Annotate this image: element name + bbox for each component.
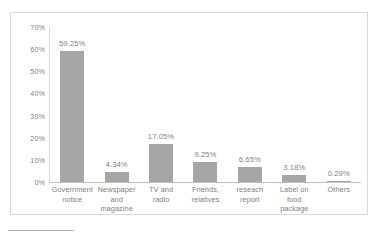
bar-value-label: 0.29%: [328, 169, 350, 178]
bar-slot: 59.25%: [50, 27, 94, 182]
chart-container: 0%10%20%30%40%50%60%70% 59.25%4.34%17.05…: [10, 12, 368, 215]
x-axis-category-label: Label on food package: [272, 185, 316, 214]
bar-value-label: 4.34%: [106, 160, 128, 169]
x-axis-category-label: Newspaper and magazine: [94, 185, 138, 214]
y-axis-tick-label: 20%: [30, 133, 49, 142]
y-axis-tick-label: 60%: [30, 45, 49, 54]
y-axis-tick-label: 40%: [30, 89, 49, 98]
bar-slot: 9.25%: [183, 27, 227, 182]
bar[interactable]: 9.25%: [193, 162, 217, 182]
bar-value-label: 59.25%: [59, 39, 85, 48]
bar[interactable]: 0.29%: [327, 181, 351, 182]
y-axis-tick-label: 70%: [30, 23, 49, 32]
bar-slot: 0.29%: [317, 27, 361, 182]
bar-value-label: 17.05%: [148, 132, 174, 141]
bar-series: 59.25%4.34%17.05%9.25%6.65%3.18%0.29%: [50, 27, 361, 182]
x-axis-line: [49, 182, 361, 183]
y-axis-tick-label: 50%: [30, 67, 49, 76]
bar-slot: 3.18%: [272, 27, 316, 182]
bar-value-label: 3.18%: [283, 163, 305, 172]
plot-area: 0%10%20%30%40%50%60%70% 59.25%4.34%17.05…: [11, 13, 367, 214]
bar-slot: 4.34%: [94, 27, 138, 182]
footer-rule: [8, 230, 74, 231]
bar[interactable]: 59.25%: [60, 51, 84, 182]
bar[interactable]: 17.05%: [149, 144, 173, 182]
y-axis-tick-label: 30%: [30, 111, 49, 120]
x-axis-category-label: reseach report: [228, 185, 272, 214]
bar-slot: 17.05%: [139, 27, 183, 182]
x-axis-category-label: Friends, relatives: [183, 185, 227, 214]
y-axis-tick-label: 10%: [30, 155, 49, 164]
x-axis-category-label: TV and radio: [139, 185, 183, 214]
bar[interactable]: 6.65%: [238, 167, 262, 182]
bar-slot: 6.65%: [228, 27, 272, 182]
bar[interactable]: 3.18%: [282, 175, 306, 182]
bar-value-label: 9.25%: [194, 150, 216, 159]
x-axis-category-label: Others: [317, 185, 361, 214]
x-axis-category-label: Government notice: [50, 185, 94, 214]
y-axis-tick-label: 0%: [34, 178, 49, 187]
x-axis-labels: Government noticeNewspaper and magazineT…: [50, 185, 361, 214]
bar[interactable]: 4.34%: [105, 172, 129, 182]
bar-value-label: 6.65%: [239, 155, 261, 164]
